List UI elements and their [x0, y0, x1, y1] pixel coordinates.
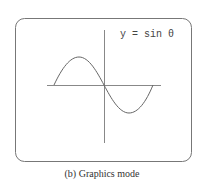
- figure-caption: (b) Graphics mode: [0, 168, 204, 179]
- graphics-screen: y = sin θ: [0, 0, 204, 192]
- equation-label: y = sin θ: [120, 29, 174, 40]
